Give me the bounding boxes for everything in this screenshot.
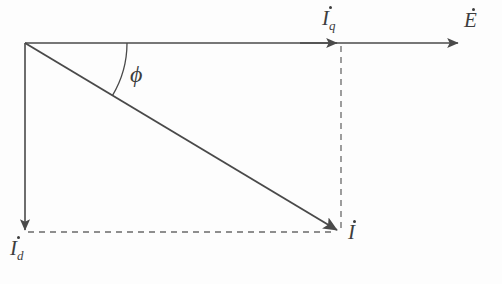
emf-overdot-wrap: E xyxy=(464,10,477,31)
phi-angle-arc xyxy=(112,43,127,96)
emf-label: E xyxy=(464,10,477,31)
overdot-icon xyxy=(17,236,20,239)
current-q-subscript: q xyxy=(329,19,336,32)
overdot-icon xyxy=(329,6,332,9)
current-label: I xyxy=(348,222,355,243)
current-d-subscript: d xyxy=(17,249,24,262)
phasor-diagram-canvas xyxy=(0,0,502,284)
current-vector-line xyxy=(25,43,337,230)
current-q-label: I q xyxy=(322,8,336,29)
current-overdot-wrap: I xyxy=(348,222,355,243)
current-d-symbol: I xyxy=(10,238,17,259)
current-q-overdot-wrap: I xyxy=(322,8,329,29)
current-symbol: I xyxy=(348,222,355,243)
current-q-symbol: I xyxy=(322,8,329,29)
phi-angle-label: ϕ xyxy=(130,62,142,86)
phasor-diagram: E I q I d I ϕ xyxy=(0,0,502,284)
emf-symbol: E xyxy=(464,10,477,31)
current-d-overdot-wrap: I xyxy=(10,238,17,259)
current-d-label: I d xyxy=(10,238,24,259)
phi-symbol: ϕ xyxy=(130,62,142,86)
